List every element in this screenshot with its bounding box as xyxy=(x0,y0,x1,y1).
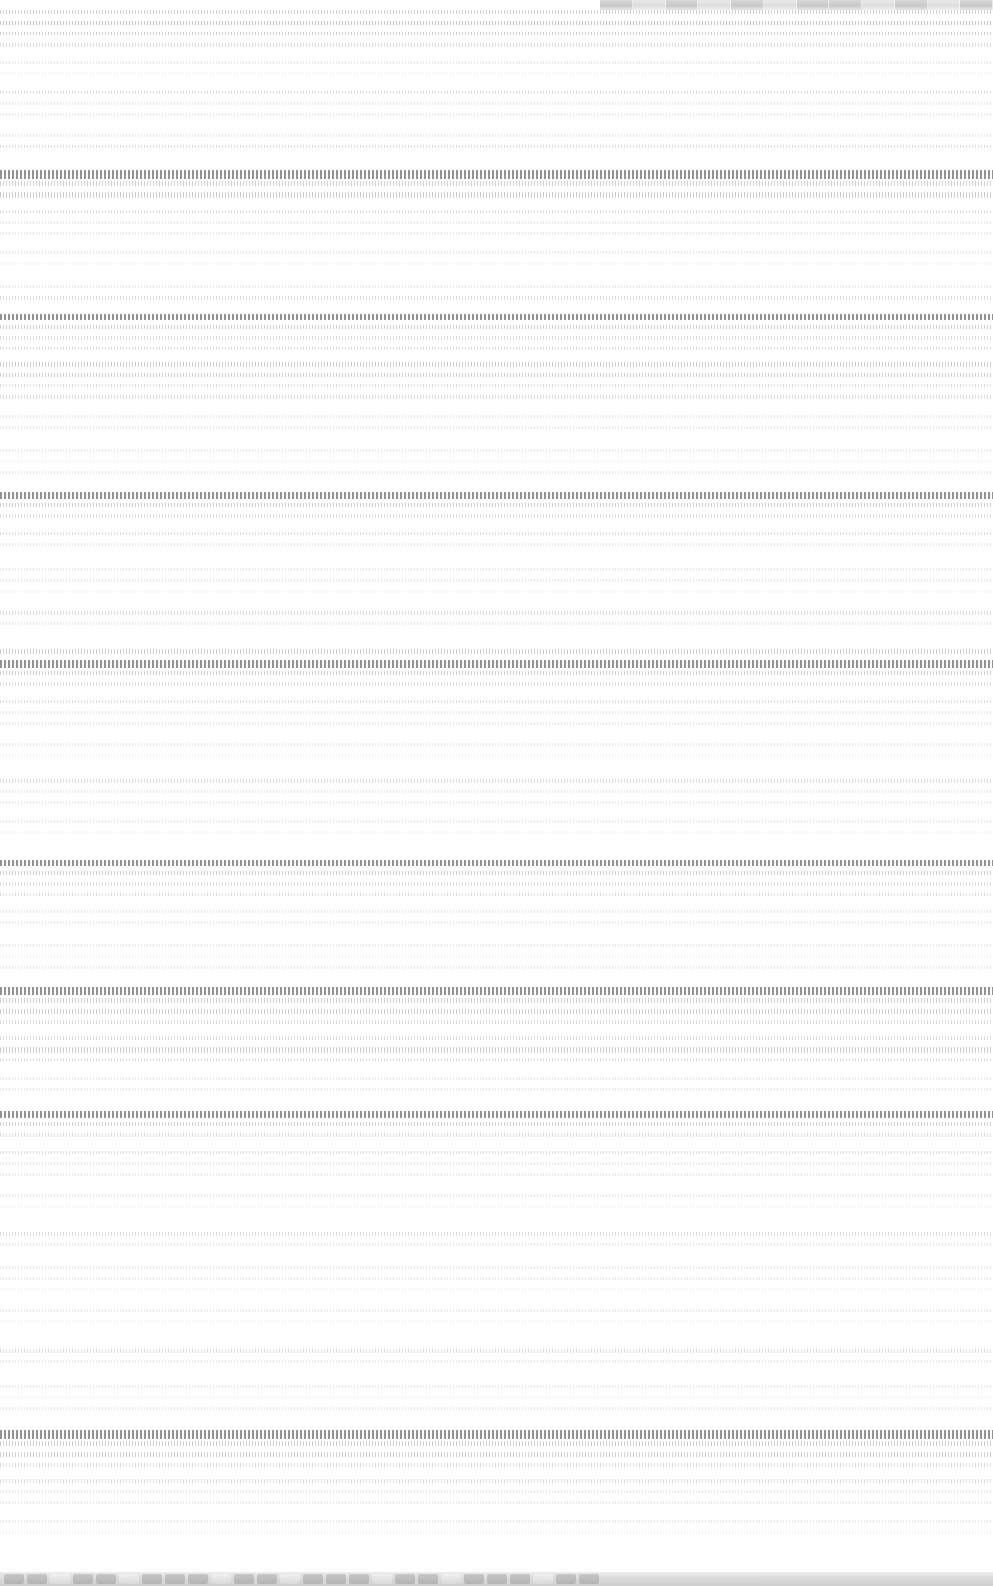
text-block[interactable] xyxy=(0,415,993,429)
dock-app-icon[interactable] xyxy=(4,1574,24,1584)
text-block[interactable] xyxy=(0,251,993,265)
text-block[interactable] xyxy=(0,210,993,235)
text-block[interactable] xyxy=(0,1232,993,1246)
dock-app-icon[interactable] xyxy=(50,1574,70,1584)
dock-app-icon[interactable] xyxy=(418,1574,438,1584)
dock-app-icon[interactable] xyxy=(142,1574,162,1584)
chrome-segment[interactable] xyxy=(764,0,797,10)
chrome-segment[interactable] xyxy=(698,0,731,10)
text-block[interactable] xyxy=(0,61,993,75)
text-line xyxy=(0,43,993,47)
dock-app-icon[interactable] xyxy=(96,1574,116,1584)
text-block[interactable] xyxy=(0,449,993,474)
text-block[interactable] xyxy=(0,568,993,593)
dock-app-icon[interactable] xyxy=(73,1574,93,1584)
text-block[interactable] xyxy=(0,910,993,924)
dock-app-icon[interactable] xyxy=(188,1574,208,1584)
text-line xyxy=(0,336,993,340)
dock-app-icon[interactable] xyxy=(395,1574,415,1584)
text-block[interactable] xyxy=(0,1151,993,1176)
text-block[interactable] xyxy=(0,649,993,686)
text-line xyxy=(0,1531,993,1534)
dock-app-icon[interactable] xyxy=(119,1574,139,1584)
dock-app-icon[interactable] xyxy=(211,1574,231,1584)
dock-app-icon[interactable] xyxy=(556,1574,576,1584)
dock-app-icon[interactable] xyxy=(487,1574,507,1584)
text-block[interactable] xyxy=(0,779,993,804)
text-line xyxy=(0,754,993,757)
dock-app-icon[interactable] xyxy=(303,1574,323,1584)
dock-app-icon[interactable] xyxy=(349,1574,369,1584)
dock-app-icon[interactable] xyxy=(234,1574,254,1584)
text-block[interactable] xyxy=(0,1194,993,1208)
taskbar-dock[interactable] xyxy=(0,1572,993,1586)
dock-app-icon[interactable] xyxy=(510,1574,530,1584)
text-line xyxy=(0,790,993,793)
text-line xyxy=(0,395,993,399)
chrome-segment[interactable] xyxy=(600,0,633,10)
text-line xyxy=(0,1463,993,1467)
text-line xyxy=(0,1320,993,1323)
text-block[interactable] xyxy=(0,611,993,625)
text-block[interactable] xyxy=(0,1520,993,1534)
chrome-segment[interactable] xyxy=(960,0,993,10)
text-line xyxy=(0,113,993,116)
text-block[interactable] xyxy=(0,700,993,725)
text-block[interactable] xyxy=(0,1309,993,1323)
dock-app-icon[interactable] xyxy=(165,1574,185,1584)
chrome-segment[interactable] xyxy=(797,0,830,10)
dock-app-icon[interactable] xyxy=(372,1574,392,1584)
text-block[interactable] xyxy=(0,170,993,198)
dock-app-icon[interactable] xyxy=(280,1574,300,1584)
dock-app-icon[interactable] xyxy=(326,1574,346,1584)
text-line xyxy=(0,998,993,1003)
text-block[interactable] xyxy=(0,314,993,350)
chrome-segment[interactable] xyxy=(829,0,862,10)
text-block[interactable] xyxy=(0,743,993,757)
chrome-segment[interactable] xyxy=(928,0,961,10)
text-block[interactable] xyxy=(0,134,993,148)
text-line xyxy=(0,1396,993,1399)
dock-app-icon[interactable] xyxy=(257,1574,277,1584)
text-block[interactable] xyxy=(0,532,993,546)
text-block[interactable] xyxy=(0,987,993,1024)
text-line xyxy=(0,221,993,224)
text-block[interactable] xyxy=(0,91,993,116)
text-line xyxy=(0,460,993,463)
text-block[interactable] xyxy=(0,1385,993,1410)
text-block[interactable] xyxy=(0,492,993,518)
text-block[interactable] xyxy=(0,1349,993,1363)
chrome-segment[interactable] xyxy=(666,0,699,10)
document-body[interactable] xyxy=(0,10,993,1572)
dock-app-icon[interactable] xyxy=(579,1574,599,1584)
text-block[interactable] xyxy=(0,820,993,834)
text-line xyxy=(0,1288,993,1291)
text-block[interactable] xyxy=(0,1479,993,1504)
text-line xyxy=(0,700,993,703)
chrome-toolbar-segments[interactable] xyxy=(600,0,993,10)
text-line xyxy=(0,102,993,105)
text-block[interactable] xyxy=(0,860,993,896)
text-line xyxy=(0,1266,993,1269)
dock-app-icon[interactable] xyxy=(441,1574,461,1584)
text-block[interactable] xyxy=(0,10,993,47)
text-line xyxy=(0,61,993,64)
text-line xyxy=(0,590,993,593)
dock-app-icon[interactable] xyxy=(27,1574,47,1584)
dock-app-icon[interactable] xyxy=(533,1574,553,1584)
dock-app-icon[interactable] xyxy=(464,1574,484,1584)
text-block[interactable] xyxy=(0,1077,993,1091)
text-block[interactable] xyxy=(0,1036,993,1061)
chrome-segment[interactable] xyxy=(895,0,928,10)
text-block[interactable] xyxy=(0,285,993,300)
text-block[interactable] xyxy=(0,1111,993,1137)
text-block[interactable] xyxy=(0,362,993,399)
text-block[interactable] xyxy=(0,944,993,969)
chrome-segment[interactable] xyxy=(862,0,895,10)
heading-line xyxy=(0,492,993,499)
text-block[interactable] xyxy=(0,1430,993,1467)
text-block[interactable] xyxy=(0,1266,993,1291)
chrome-segment[interactable] xyxy=(633,0,666,10)
chrome-segment[interactable] xyxy=(731,0,764,10)
text-line xyxy=(0,1058,993,1061)
